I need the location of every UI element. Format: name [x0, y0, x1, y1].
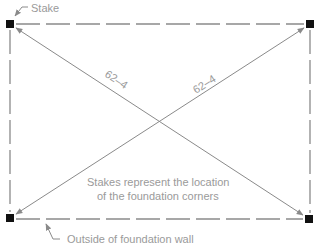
- stake-leader: [15, 7, 28, 16]
- wall-leader: [46, 224, 60, 239]
- foundation-diagram: Stake 62–4 62–4 Stakes represent the loc…: [0, 0, 319, 250]
- stake-bottom-right: [305, 215, 313, 223]
- stake-top-left: [6, 20, 14, 28]
- stake-top-right: [306, 20, 314, 28]
- stake-bottom-left: [6, 214, 14, 222]
- wall-label: Outside of foundation wall: [67, 233, 194, 245]
- note-line-1: Stakes represent the location: [87, 176, 229, 188]
- stake-label: Stake: [31, 2, 59, 14]
- note-line-2: of the foundation corners: [97, 190, 219, 202]
